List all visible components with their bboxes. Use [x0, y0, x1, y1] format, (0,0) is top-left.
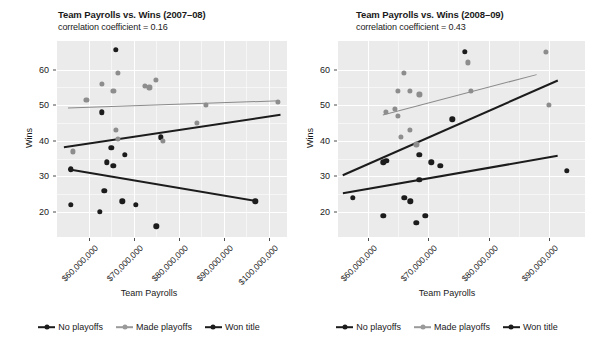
- figure-root: Team Payrolls vs. Wins (2007–08) correla…: [0, 0, 596, 353]
- gridline-vertical: [368, 41, 369, 237]
- data-point: [102, 188, 107, 193]
- gridline-horizontal-minor: [57, 87, 287, 88]
- data-point: [100, 81, 105, 86]
- data-point: [113, 127, 118, 132]
- y-tick-mark: [334, 176, 337, 177]
- y-tick-label: 60: [304, 65, 330, 75]
- gridline-vertical: [428, 41, 429, 237]
- data-point: [564, 168, 569, 173]
- data-point: [68, 167, 73, 172]
- data-point: [147, 85, 152, 90]
- legend-label: No playoffs: [58, 322, 103, 332]
- gridline-vertical-minor: [246, 41, 247, 237]
- legend-label: Made playoffs: [136, 322, 192, 332]
- panel-subtitle-left: correlation coefficient = 0.16: [58, 22, 206, 33]
- x-tick-mark: [179, 238, 180, 241]
- data-point: [543, 49, 548, 54]
- x-tick-mark: [489, 238, 490, 241]
- legend-marker-icon: [205, 323, 222, 332]
- y-tick-mark: [334, 212, 337, 213]
- gridline-vertical-minor: [458, 41, 459, 237]
- trend-line: [383, 74, 537, 115]
- gridline-vertical: [549, 41, 550, 237]
- gridline-horizontal-minor: [57, 159, 287, 160]
- data-point: [194, 120, 199, 125]
- x-tick-mark: [428, 238, 429, 241]
- data-point: [380, 213, 385, 218]
- legend-marker-icon: [116, 323, 133, 332]
- x-axis-title-right: Team Payrolls: [298, 288, 596, 298]
- title-block-right: Team Payrolls vs. Wins (2008–09) correla…: [356, 9, 504, 33]
- gridline-vertical: [179, 41, 180, 237]
- data-point: [408, 199, 413, 204]
- legend-marker-icon: [38, 323, 55, 332]
- gridline-horizontal: [57, 70, 287, 71]
- y-axis-title-right: Wins: [305, 118, 315, 158]
- legend-item-1[interactable]: Made playoffs: [116, 322, 192, 332]
- data-point: [120, 199, 125, 204]
- data-point: [399, 135, 404, 140]
- y-tick-label: 30: [304, 171, 330, 181]
- x-tick-mark: [269, 238, 270, 241]
- plot-area-right: [338, 41, 585, 237]
- gridline-vertical: [489, 41, 490, 237]
- data-point: [408, 127, 413, 132]
- y-tick-label: 20: [23, 207, 49, 217]
- data-point: [450, 117, 455, 122]
- y-tick-mark: [53, 69, 56, 70]
- data-point: [111, 163, 116, 168]
- y-tick-mark: [53, 176, 56, 177]
- gridline-horizontal: [57, 212, 287, 213]
- data-point: [154, 78, 159, 83]
- legend-label: Won title: [225, 322, 260, 332]
- data-point: [417, 177, 422, 182]
- data-point: [438, 163, 443, 168]
- legend-item-1[interactable]: Made playoffs: [414, 322, 490, 332]
- legend-label: Made playoffs: [434, 322, 490, 332]
- legend-label: No playoffs: [356, 322, 401, 332]
- y-tick-mark: [334, 105, 337, 106]
- data-point: [408, 88, 413, 93]
- trend-line: [64, 114, 281, 148]
- data-point: [402, 195, 407, 200]
- gridline-horizontal-minor: [57, 123, 287, 124]
- trend-line: [68, 169, 258, 203]
- gridline-vertical-minor: [156, 41, 157, 237]
- data-point: [99, 110, 104, 115]
- data-point: [414, 220, 419, 225]
- data-point: [160, 138, 165, 143]
- y-tick-mark: [334, 69, 337, 70]
- data-point: [462, 49, 467, 54]
- legend-marker-icon: [336, 323, 353, 332]
- legend-marker-icon: [503, 323, 520, 332]
- data-point: [417, 92, 422, 97]
- gridline-horizontal-minor: [57, 194, 287, 195]
- data-point: [350, 195, 355, 200]
- data-point: [111, 88, 116, 93]
- legend-item-2[interactable]: Won title: [503, 322, 558, 332]
- gridline-horizontal: [57, 176, 287, 177]
- y-tick-label: 30: [23, 171, 49, 181]
- x-tick-mark: [134, 238, 135, 241]
- data-point: [396, 113, 401, 118]
- gridline-vertical: [134, 41, 135, 237]
- gridline-vertical: [89, 41, 90, 237]
- gridline-vertical: [224, 41, 225, 237]
- panel-title-right: Team Payrolls vs. Wins (2008–09): [356, 9, 504, 21]
- legend-item-2[interactable]: Won title: [205, 322, 260, 332]
- legend-label: Won title: [523, 322, 558, 332]
- data-point: [108, 145, 113, 150]
- data-point: [468, 88, 473, 93]
- gridline-vertical: [269, 41, 270, 237]
- data-point: [104, 159, 109, 164]
- data-point: [133, 202, 138, 207]
- data-point: [122, 152, 127, 157]
- x-tick-mark: [549, 238, 550, 241]
- y-tick-label: 20: [304, 207, 330, 217]
- legend-item-0[interactable]: No playoffs: [38, 322, 103, 332]
- data-point: [396, 88, 401, 93]
- data-point: [115, 70, 120, 75]
- gridline-vertical-minor: [519, 41, 520, 237]
- data-point: [68, 202, 73, 207]
- legend-item-0[interactable]: No playoffs: [336, 322, 401, 332]
